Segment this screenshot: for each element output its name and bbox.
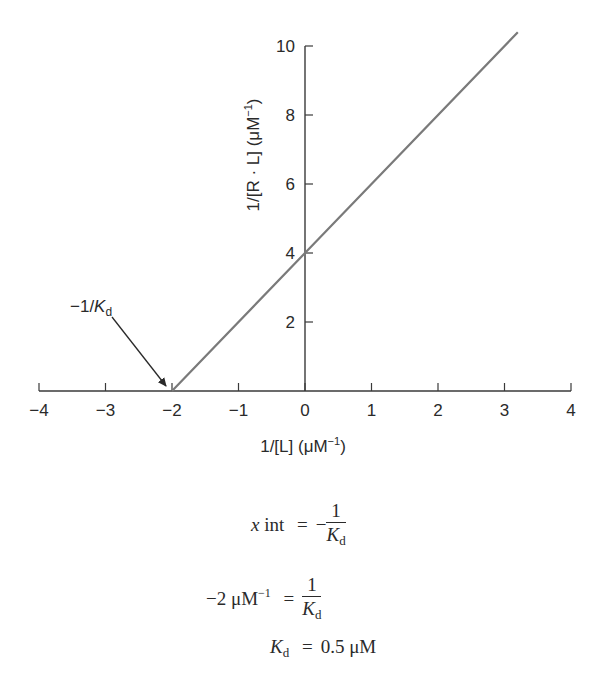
binding-line: [172, 32, 518, 391]
x-axis-label: 1/[L] (μM−1): [260, 435, 346, 456]
annotation-arrow: [112, 317, 166, 386]
x-tick-label: −3: [96, 401, 115, 420]
x-tick-label: −1: [229, 401, 248, 420]
equation-substitution: −2 μM−1 =1Kd: [206, 574, 321, 627]
y-axis-label: 1/[R · L] (μM−1): [242, 98, 263, 211]
equation-kd-result: Kd =0.5 μM: [270, 636, 376, 661]
equation-x-intercept: x int =−1Kd: [251, 500, 346, 553]
annotation-label: −1/Kd: [70, 297, 112, 319]
y-tick-label: 4: [286, 244, 295, 263]
x-tick-label: 1: [367, 401, 376, 420]
axes: [39, 46, 571, 391]
y-tick-label: 8: [286, 106, 295, 125]
fraction-one-over-kd: 1Kd: [326, 500, 345, 553]
x-tick-label: 0: [300, 401, 309, 420]
y-tick-label: 6: [286, 175, 295, 194]
lineweaver-burk-chart: −4−3−2−101234246810 −1/Kd 1/[L] (μM−1) 1…: [0, 0, 600, 470]
y-tick-label: 2: [286, 313, 295, 332]
axis-tick-labels: −4−3−2−101234246810: [29, 37, 575, 420]
x-tick-label: 3: [500, 401, 509, 420]
x-tick-label: −4: [29, 401, 48, 420]
x-tick-label: 2: [433, 401, 442, 420]
y-tick-label: 10: [276, 37, 295, 56]
x-tick-label: 4: [566, 401, 575, 420]
data-series: [172, 32, 518, 391]
x-tick-label: −2: [162, 401, 181, 420]
fraction-one-over-kd: 1Kd: [302, 574, 321, 627]
